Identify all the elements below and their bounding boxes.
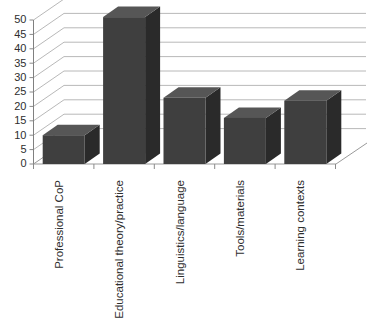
bar-side-face <box>206 87 221 164</box>
bar-front-face <box>224 118 266 164</box>
ytick-mark-group <box>30 20 34 164</box>
category-label-4: Tools/materials <box>234 180 246 257</box>
bar-front-face <box>164 98 206 164</box>
chart-container: 05101520253035404550 Professional CoPEdu… <box>0 0 386 329</box>
category-label-3: Linguistics/language <box>174 180 186 284</box>
bar-front-face <box>43 135 85 164</box>
ytick-label-30: 30 <box>14 71 26 83</box>
gridline-30 <box>34 57 367 78</box>
xtick-mark-group <box>34 164 336 169</box>
gridline-50 <box>34 0 367 20</box>
gridline-45 <box>34 13 367 34</box>
gridline-35 <box>34 42 367 63</box>
ytick-label-25: 25 <box>14 85 26 97</box>
ytick-label-10: 10 <box>14 129 26 141</box>
ytick-label-40: 40 <box>14 42 26 54</box>
bar-4 <box>224 107 281 164</box>
bar-2 <box>103 7 160 164</box>
bar-side-face <box>326 90 341 164</box>
bar-front-face <box>103 17 145 164</box>
bar-front-face <box>284 101 326 164</box>
bar-side-face <box>145 7 160 164</box>
category-label-1: Professional CoP <box>53 180 65 269</box>
category-label-2: Educational theory/practice <box>113 180 125 319</box>
bar-1 <box>43 125 100 164</box>
bar-3 <box>164 87 221 164</box>
ytick-label-50: 50 <box>14 13 26 25</box>
ytick-label-group: 05101520253035404550 <box>14 13 26 169</box>
gridline-40 <box>34 28 367 49</box>
ytick-label-15: 15 <box>14 114 26 126</box>
bar-chart: 05101520253035404550 Professional CoPEdu… <box>0 0 386 329</box>
ytick-label-35: 35 <box>14 57 26 69</box>
category-label-5: Learning contexts <box>294 180 306 271</box>
category-label-group: Professional CoPEducational theory/pract… <box>53 180 307 319</box>
ytick-label-45: 45 <box>14 28 26 40</box>
ytick-label-5: 5 <box>20 143 26 155</box>
bar-5 <box>284 90 341 164</box>
ytick-label-20: 20 <box>14 100 26 112</box>
ytick-label-0: 0 <box>20 157 26 169</box>
